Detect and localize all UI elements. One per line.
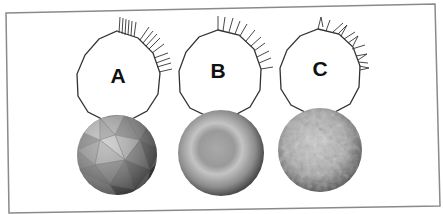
panel-a-label: A <box>110 64 125 87</box>
shading-normals-figure: A B <box>0 0 443 214</box>
panel-b-label: B <box>210 59 225 82</box>
panel-c-label: C <box>312 57 327 80</box>
sphere-b-smooth <box>178 110 264 196</box>
sphere-c-bumpy <box>278 108 362 192</box>
